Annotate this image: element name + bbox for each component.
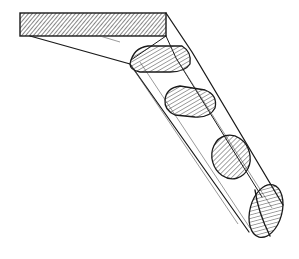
cross-section-3 xyxy=(207,131,255,183)
cross-section-2 xyxy=(165,86,216,117)
cross-section-1 xyxy=(130,46,190,72)
bent-prism-sketch xyxy=(0,0,299,259)
top-slab xyxy=(20,13,166,36)
figure-canvas xyxy=(0,0,299,259)
cross-section-4 xyxy=(244,181,289,241)
